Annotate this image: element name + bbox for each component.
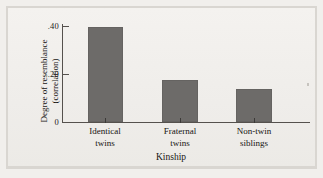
scan-artifact-speck bbox=[307, 83, 309, 86]
bar-identical-twins[interactable] bbox=[88, 27, 123, 122]
x-axis-title: Kinship bbox=[126, 152, 216, 162]
x-axis-label-identical-twins: Identical twins bbox=[62, 126, 148, 149]
y-axis-title-container: Degree of resemblance (correlation) bbox=[22, 18, 50, 122]
y-axis-tick-020 bbox=[63, 74, 69, 75]
x-axis-tickmark-1 bbox=[105, 118, 106, 123]
y-axis-tick-040 bbox=[63, 26, 69, 27]
figure-panel: Degree of resemblance (correlation) .40 … bbox=[0, 0, 323, 178]
bar-fraternal-twins[interactable] bbox=[162, 80, 198, 122]
bar-chart: Degree of resemblance (correlation) .40 … bbox=[0, 0, 323, 178]
y-axis-tick-label-040: .40 bbox=[48, 21, 59, 31]
x-axis-tickmark-3 bbox=[254, 118, 255, 123]
x-axis-label-non-twin-siblings: Non-twin siblings bbox=[211, 126, 297, 149]
x-axis-tickmark-2 bbox=[180, 118, 181, 123]
y-axis-tick-label-0: 0 bbox=[55, 117, 59, 127]
y-axis-tick-label-020: .20 bbox=[48, 69, 59, 79]
x-axis-line bbox=[62, 122, 310, 123]
